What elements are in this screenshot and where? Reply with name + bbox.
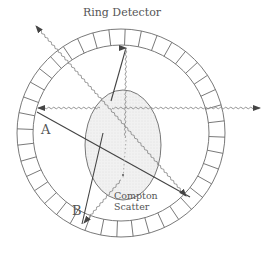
compton-label-1: Compton — [114, 190, 158, 201]
label-b: B — [72, 203, 82, 218]
label-a: A — [40, 122, 51, 137]
ring-detector-diagram: A B Compton Scatter — [0, 0, 272, 266]
gamma-horizontal-left — [38, 107, 100, 109]
compton-label-2: Scatter — [114, 201, 150, 212]
